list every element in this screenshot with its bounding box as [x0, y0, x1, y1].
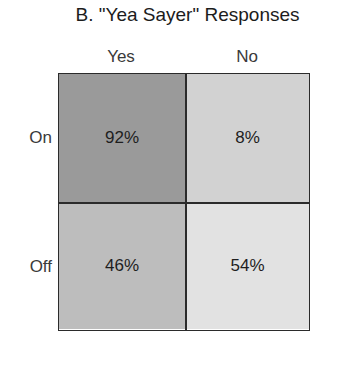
chart-title: B. "Yea Sayer" Responses	[14, 4, 347, 26]
cell-on-no: 8%	[186, 74, 309, 202]
column-label-yes: Yes	[58, 47, 184, 67]
cell-off-yes: 46%	[59, 203, 185, 329]
cell-on-yes: 92%	[59, 74, 185, 202]
row-label-on: On	[0, 128, 52, 148]
response-matrix: 92% 8% 46% 54%	[58, 73, 310, 331]
horizontal-divider	[59, 202, 309, 204]
column-label-no: No	[184, 47, 310, 67]
cell-off-no: 54%	[186, 203, 309, 329]
row-label-off: Off	[0, 257, 52, 277]
